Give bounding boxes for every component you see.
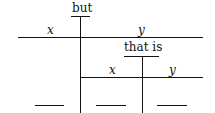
blank-2 [96, 105, 126, 106]
top-right-var: y [138, 24, 145, 36]
main-divider [80, 16, 81, 113]
sentence-diagram: but x y that is x y [0, 0, 215, 113]
blank-1 [35, 105, 64, 106]
conjunction-that-is: that is [124, 41, 162, 53]
mid-right-var: y [169, 64, 176, 76]
conjunction-but: but [72, 2, 92, 14]
mid-baseline [80, 77, 203, 78]
main-baseline [18, 37, 203, 38]
mid-divider [142, 56, 143, 113]
mid-left-var: x [109, 64, 116, 76]
blank-3 [157, 105, 187, 106]
top-left-var: x [47, 24, 54, 36]
